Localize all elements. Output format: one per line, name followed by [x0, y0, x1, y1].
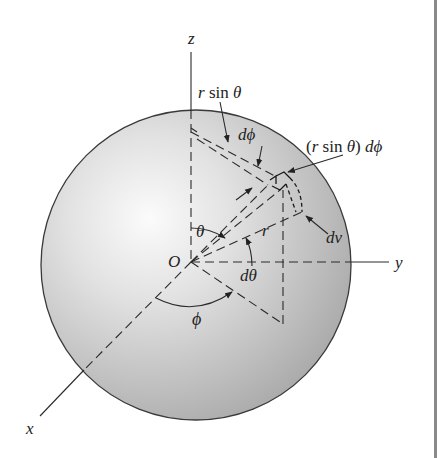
dv-label: dv: [326, 228, 343, 247]
theta-label: θ: [196, 222, 204, 241]
r-label: r: [262, 221, 269, 240]
origin-label: O: [168, 252, 180, 271]
r-sin-theta-d-phi-label: (r sin θ) dϕ: [306, 137, 382, 156]
r-sin-theta-label: r sin θ: [198, 83, 241, 102]
page-edge-bar: [434, 0, 437, 458]
d-phi-label: dϕ: [238, 125, 256, 144]
x-axis-label: x: [25, 419, 34, 438]
y-axis-label: y: [393, 253, 403, 272]
x-axis-outer: [40, 370, 84, 416]
spherical-coordinates-diagram: z y x O r sin θ dϕ (r sin θ) dϕ dv r θ d…: [0, 0, 438, 458]
d-theta-label: dθ: [240, 266, 257, 285]
phi-label: ϕ: [192, 309, 201, 329]
z-axis-label: z: [187, 29, 195, 48]
